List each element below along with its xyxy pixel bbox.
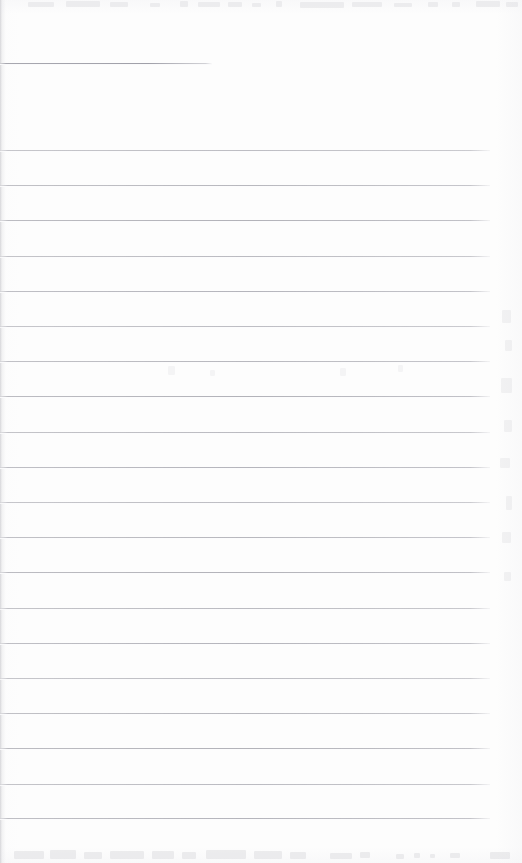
bleed-through-mark <box>14 851 44 859</box>
bleed-through-bottom <box>0 845 522 863</box>
bleed-through-mark <box>198 2 220 7</box>
bleed-through-mark <box>360 852 370 858</box>
bleed-through-mark <box>330 853 352 859</box>
bleed-through-mark <box>501 378 512 393</box>
bleed-through-mark <box>502 310 511 323</box>
bleed-through-mark <box>396 854 404 859</box>
bleed-through-mark <box>452 2 460 7</box>
heading-underline-rule <box>0 63 212 64</box>
bleed-through-mark <box>476 1 500 7</box>
writing-area[interactable] <box>0 140 490 830</box>
bleed-through-mark <box>300 2 344 8</box>
bleed-through-mark <box>276 1 282 7</box>
bleed-through-mark <box>502 532 511 543</box>
bleed-through-mark <box>394 3 412 7</box>
bleed-through-mark <box>66 1 100 7</box>
bleed-through-mark <box>504 420 512 432</box>
scanned-page <box>0 0 522 863</box>
bleed-through-mark <box>506 2 518 7</box>
bleed-through-mark <box>110 851 144 859</box>
bleed-through-mark <box>28 2 54 7</box>
bleed-through-mark <box>352 2 382 7</box>
bleed-through-mark <box>180 1 188 7</box>
bleed-through-mark <box>414 853 420 858</box>
bleed-through-mark <box>430 854 435 858</box>
bleed-through-mark <box>506 496 512 510</box>
bleed-through-mark <box>182 852 196 859</box>
bleed-through-mark <box>254 851 282 859</box>
bleed-through-mark <box>84 852 102 859</box>
bleed-through-mark <box>505 340 512 351</box>
bleed-through-mark <box>150 3 160 7</box>
bleed-through-mark <box>490 852 510 859</box>
bleed-through-top <box>0 0 522 12</box>
bleed-through-mark <box>504 572 511 581</box>
bleed-through-mark <box>228 2 242 7</box>
bleed-through-mark <box>110 2 128 7</box>
bleed-through-mark <box>152 851 174 859</box>
bleed-through-mark <box>252 3 261 7</box>
bleed-through-mark <box>500 458 510 468</box>
bleed-through-mark <box>290 852 306 859</box>
bleed-through-mark <box>206 850 246 859</box>
bleed-through-right-margin <box>498 300 522 620</box>
bleed-through-mark <box>50 850 76 859</box>
bleed-through-mark <box>428 2 438 7</box>
bleed-through-mark <box>450 853 460 858</box>
